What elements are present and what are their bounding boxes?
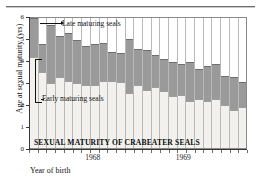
y-tick (26, 83, 29, 84)
bar-segment-late-maturing (239, 82, 247, 108)
bar-segment-late-maturing (221, 76, 229, 106)
x-tick (55, 150, 56, 153)
bar-column (212, 18, 221, 148)
bar-segment-late-maturing (230, 77, 238, 111)
bar-segment-late-maturing (82, 46, 90, 87)
annotation-late-maturing: Late maturing seals (62, 19, 121, 28)
y-axis-title: Age at sexual maturity (yrs) (15, 4, 24, 134)
x-tick (160, 150, 161, 153)
bar-segment-late-maturing (152, 55, 160, 88)
bar-column (169, 18, 178, 148)
x-tick (29, 150, 30, 153)
y-tick (26, 39, 29, 40)
chart-title: SEXUAL MATURITY OF CRABEATER SEALS (34, 138, 200, 147)
top-divider-rule (6, 6, 255, 8)
bar-column (230, 18, 239, 148)
y-tick-label: 0 (8, 145, 24, 153)
x-tick (142, 150, 143, 153)
bar-series-container (30, 18, 246, 148)
bar-segment-late-maturing (117, 53, 125, 83)
x-axis-line (29, 149, 247, 150)
x-tick (169, 150, 170, 153)
x-tick (203, 150, 204, 153)
y-tick (26, 61, 29, 62)
bar-column (186, 18, 195, 148)
bar-column (134, 18, 143, 148)
bar-segment-late-maturing (178, 64, 186, 96)
x-tick (221, 150, 222, 153)
bar-segment-late-maturing (100, 43, 108, 81)
x-tick (134, 150, 135, 153)
x-tick (230, 150, 231, 153)
bar-segment-late-maturing (56, 36, 64, 79)
late-annotation-leader-line (40, 23, 61, 24)
x-tick (151, 150, 152, 153)
x-tick (81, 150, 82, 153)
bar-column (178, 18, 187, 148)
bar-segment-early-maturing (204, 101, 212, 150)
bar-column (204, 18, 213, 148)
bar-column (73, 18, 82, 148)
x-tick (125, 150, 126, 153)
early-annotation-bracket (35, 59, 42, 103)
bar-column (47, 18, 56, 148)
x-tick (46, 150, 47, 153)
bar-segment-late-maturing (65, 33, 73, 81)
x-tick (73, 150, 74, 153)
bar-segment-late-maturing (108, 52, 116, 82)
x-tick (238, 150, 239, 153)
y-tick (26, 127, 29, 128)
bar-segment-early-maturing (239, 107, 247, 149)
x-tick-label: 1969 (176, 153, 191, 162)
x-tick-label: 1968 (85, 153, 100, 162)
bar-segment-late-maturing (134, 49, 142, 86)
bar-column (108, 18, 117, 148)
bar-column (126, 18, 135, 148)
bar-column (195, 18, 204, 148)
x-axis-title: Year of birth (30, 166, 71, 175)
bar-column (82, 18, 91, 148)
bar-segment-late-maturing (212, 64, 220, 100)
x-tick (107, 150, 108, 153)
bar-column (221, 18, 230, 148)
y-axis-line (29, 17, 30, 149)
bar-column (239, 18, 247, 148)
bar-segment-late-maturing (160, 59, 168, 92)
bar-column (56, 18, 65, 148)
figure-root: 0123456 Age at sexual maturity (yrs) 196… (0, 0, 261, 186)
x-tick (212, 150, 213, 153)
bar-segment-early-maturing (230, 110, 238, 149)
bar-segment-late-maturing (143, 50, 151, 91)
x-tick (64, 150, 65, 153)
bar-column (160, 18, 169, 148)
bar-segment-late-maturing (47, 25, 55, 84)
x-tick (116, 150, 117, 153)
annotation-early-maturing: Early maturing seals (42, 94, 104, 103)
bar-segment-late-maturing (30, 18, 38, 58)
bar-segment-early-maturing (212, 99, 220, 149)
y-tick (26, 105, 29, 106)
plot-area (29, 17, 247, 149)
bar-segment-early-maturing (221, 105, 229, 149)
bar-segment-late-maturing (73, 40, 81, 84)
bar-segment-late-maturing (186, 62, 194, 102)
bar-column (152, 18, 161, 148)
bar-column (65, 18, 74, 148)
bar-segment-late-maturing (91, 44, 99, 86)
bar-segment-late-maturing (169, 62, 177, 97)
bar-segment-late-maturing (195, 69, 203, 101)
bar-column (143, 18, 152, 148)
y-tick (26, 17, 29, 18)
x-tick (38, 150, 39, 153)
bar-column (91, 18, 100, 148)
bar-segment-late-maturing (204, 66, 212, 101)
bar-segment-late-maturing (126, 39, 134, 94)
x-tick (247, 150, 248, 153)
bar-column (117, 18, 126, 148)
bar-column (100, 18, 109, 148)
x-tick (195, 150, 196, 153)
